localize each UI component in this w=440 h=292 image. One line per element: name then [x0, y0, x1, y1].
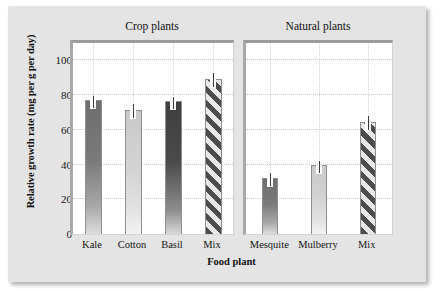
- gridline-100: [73, 59, 233, 60]
- bar-mix-natural: [360, 122, 376, 234]
- error-bar-kale: [93, 96, 94, 108]
- plot-panel-natural: [243, 40, 393, 235]
- plot-panel-crop: [70, 40, 234, 235]
- error-bar-basil: [173, 97, 174, 109]
- x-label-natural-mix: Mix: [358, 239, 376, 250]
- error-bar-mesquite: [270, 173, 271, 185]
- panel-title-crop: Crop plants: [70, 20, 234, 32]
- panel-title-natural: Natural plants: [243, 20, 393, 32]
- x-label-crop-basil: Basil: [161, 239, 183, 250]
- bar-mix-crop: [205, 79, 222, 234]
- plot-area-natural: [246, 43, 392, 234]
- bar-basil-crop: [165, 101, 182, 234]
- error-bar-mulberry: [319, 161, 320, 172]
- x-label-natural-mulberry: Mulberry: [298, 239, 338, 250]
- plot-area-crop: [73, 43, 233, 234]
- y-axis-tick-labels: 100806040200: [46, 34, 72, 238]
- bar-mulberry-natural: [311, 165, 327, 234]
- figure-card: Relative growth rate (mg per g per day) …: [8, 6, 426, 282]
- error-bar-mix: [213, 73, 214, 87]
- bar-kale-crop: [85, 100, 102, 234]
- error-bar-cotton: [133, 104, 134, 118]
- x-label-crop-mix: Mix: [203, 239, 221, 250]
- bar-cotton-crop: [125, 110, 142, 234]
- x-label-crop-cotton: Cotton: [118, 239, 147, 250]
- error-bar-mix: [368, 116, 369, 130]
- x-axis-title: Food plant: [70, 256, 393, 267]
- x-label-natural-mesquite: Mesquite: [250, 239, 289, 250]
- y-axis-title: Relative growth rate (mg per g per day): [25, 22, 36, 222]
- x-label-crop-kale: Kale: [82, 239, 102, 250]
